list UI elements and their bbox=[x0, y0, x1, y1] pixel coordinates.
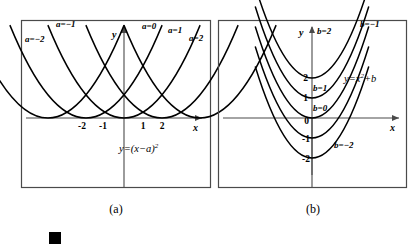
panel-b-equation: y=x2+b bbox=[343, 72, 376, 84]
panel-b-y-axis-label: y bbox=[298, 27, 304, 38]
panel-b-label-b-minus-1: b=−1 bbox=[360, 19, 380, 29]
panel-b-x-axis-label: x bbox=[389, 122, 395, 133]
curve-a-1 bbox=[86, 26, 238, 118]
panel-b-tick-0: 0 bbox=[304, 116, 309, 126]
panel-b-y-arrow-icon bbox=[309, 26, 315, 33]
panel-b-axes bbox=[223, 26, 399, 175]
panel-b-equation-tail: +b bbox=[364, 73, 376, 84]
panel-a-y-axis-label: y bbox=[111, 29, 117, 40]
panel-a-label-a-2: a=2 bbox=[189, 33, 204, 43]
panel-a-equation: y=(x−a)2 bbox=[118, 142, 159, 155]
panel-b-caption: (b) bbox=[306, 202, 320, 216]
end-of-proof-marker-icon bbox=[49, 232, 61, 244]
panel-a-tick-2: 2 bbox=[160, 121, 165, 131]
panel-a-axes bbox=[26, 26, 202, 121]
panel-b-x-arrow-icon bbox=[392, 115, 399, 121]
panel-a-tick--2: -2 bbox=[78, 121, 86, 131]
panel-a-label-a-minus-2: a=−2 bbox=[25, 34, 45, 44]
parabola-families-figure: -2 -1 1 2 x y a=−2 a=−1 a=0 a=1 a=2 y=(x… bbox=[0, 0, 417, 252]
panel-b-tick--2: -2 bbox=[302, 154, 310, 164]
panel-a-x-ticks: -2 -1 1 2 bbox=[78, 121, 165, 131]
panel-b-label-b-0: b=0 bbox=[313, 103, 328, 113]
panel-b-tick--1: -1 bbox=[302, 134, 310, 144]
panel-a-equation-exponent: 2 bbox=[155, 142, 159, 150]
panel-a-label-a-1: a=1 bbox=[168, 25, 182, 35]
panel-a-tick--1: -1 bbox=[99, 121, 107, 131]
panel-b-tick-1: 1 bbox=[303, 93, 308, 103]
curve-a-minus-2 bbox=[0, 26, 124, 118]
panel-a-caption: (a) bbox=[109, 202, 122, 216]
panel-b-equation-base: y=x bbox=[343, 73, 361, 84]
panel-b-label-b-1: b=1 bbox=[313, 83, 327, 93]
panel-a: -2 -1 1 2 x y a=−2 a=−1 a=0 a=1 a=2 y=(x… bbox=[0, 19, 276, 188]
panel-b: 2 1 0 -1 -2 x y b=2 b=1 b=0 b=−1 b=−2 y=… bbox=[219, 0, 407, 188]
panel-a-equation-base: y=(x−a) bbox=[118, 143, 155, 155]
panel-b-tick-2: 2 bbox=[303, 73, 308, 83]
panel-a-tick-1: 1 bbox=[141, 121, 146, 131]
panel-a-label-a-0: a=0 bbox=[142, 21, 157, 31]
panel-b-label-b-minus-2: b=−2 bbox=[334, 140, 354, 150]
panel-b-label-b-2: b=2 bbox=[317, 26, 332, 36]
panel-a-label-a-minus-1: a=−1 bbox=[56, 19, 76, 29]
figure-container: -2 -1 1 2 x y a=−2 a=−1 a=0 a=1 a=2 y=(x… bbox=[0, 0, 417, 252]
panel-a-x-axis-label: x bbox=[192, 122, 198, 133]
